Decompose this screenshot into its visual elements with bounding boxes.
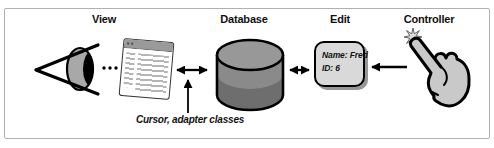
browser-window-icon — [119, 38, 175, 100]
edit-name-field: Name: Fred — [322, 50, 368, 60]
cylinder-top — [217, 40, 283, 70]
figure-canvas: View Database Edit Controller — [0, 0, 494, 148]
pointing-hand-icon — [411, 38, 470, 106]
browser-sidebar-lines — [123, 52, 135, 88]
browser-content-lines — [135, 53, 169, 95]
edit-record-box: Name: Fred ID: 6 — [314, 41, 365, 87]
database-cylinder-icon — [217, 40, 283, 110]
diagram-artwork — [0, 0, 494, 148]
edit-id-field: ID: 6 — [322, 63, 340, 73]
hand-outline — [411, 38, 470, 106]
caption-cursor-adapter: Cursor, adapter classes — [126, 114, 254, 125]
window-control-dot — [131, 43, 133, 45]
eye-icon — [36, 45, 99, 94]
window-control-dot — [127, 42, 129, 44]
dotted-gaze-line — [102, 66, 117, 69]
browser-titlebar — [124, 39, 174, 52]
